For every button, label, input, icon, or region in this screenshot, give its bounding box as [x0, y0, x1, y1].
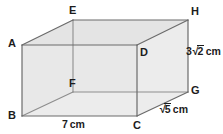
dimension-bc-unit: cm [70, 118, 85, 130]
dimension-bc-number: 7 [62, 118, 68, 130]
vertex-label-f: F [69, 78, 76, 89]
dimension-cg-radicand: 5 [164, 103, 171, 115]
dimension-label-bc: 7cm [62, 119, 85, 130]
radical-sqrt2: √2 [192, 45, 204, 57]
vertex-label-a: A [8, 38, 16, 49]
dimension-label-gh: 3√2cm [186, 45, 221, 57]
radical-sqrt5: √5 [159, 103, 171, 115]
cuboid-figure: A B C D E F G H 7cm √5cm 3√2cm [0, 0, 223, 134]
dimension-gh-radicand: 2 [197, 45, 204, 57]
dimension-gh-unit: cm [206, 45, 221, 57]
vertex-label-h: H [191, 6, 199, 17]
dimension-label-cg: √5cm [159, 103, 188, 115]
vertex-label-b: B [8, 110, 16, 121]
cuboid-drawing [0, 0, 223, 134]
vertex-label-d: D [140, 47, 148, 58]
vertex-label-c: C [133, 120, 141, 131]
vertex-label-g: G [191, 85, 200, 96]
vertex-label-e: E [69, 5, 76, 16]
dimension-cg-unit: cm [173, 103, 188, 115]
